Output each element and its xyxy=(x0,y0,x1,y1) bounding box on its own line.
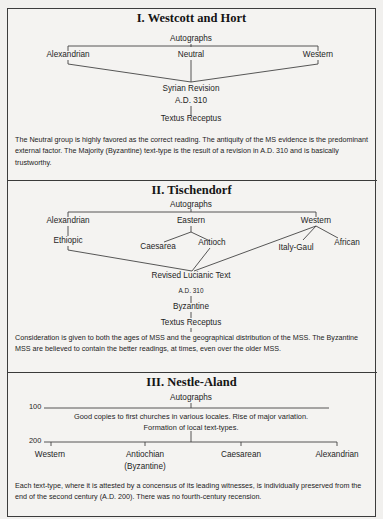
section2-node-western: Western xyxy=(301,216,331,226)
section3-node-caesarean: Caesarean xyxy=(221,450,261,460)
section1-node-alexandrian: Alexandrian xyxy=(46,50,89,60)
section1-result-node: Textus Receptus xyxy=(161,114,222,124)
section2-node-antioch: Antioch xyxy=(198,238,225,248)
section2-node-alexandrian: Alexandrian xyxy=(46,216,89,226)
section-divider-2 xyxy=(7,372,377,373)
section2-root-node: Autographs xyxy=(170,200,212,210)
section3-title: III. Nestle-Aland xyxy=(0,375,383,389)
section-divider-1 xyxy=(7,180,377,181)
section2-node-ethiopic: Ethiopic xyxy=(53,236,82,246)
section2-node-italy-gaul: Italy-Gaul xyxy=(278,243,313,253)
section1-node-western: Western xyxy=(303,50,333,60)
book-page: I. Westcott and Hort Autographs Alexandr… xyxy=(0,0,383,519)
section3-description: Each text-type, where it is attested by … xyxy=(15,480,373,503)
section1-merge-node: Syrian Revision xyxy=(163,84,220,94)
section2-byzantine-node: Byzantine xyxy=(173,302,209,312)
section3-note-line1: Good copies to first churches in various… xyxy=(74,412,308,422)
section2-node-eastern: Eastern xyxy=(177,216,205,226)
section2-merge-node: Revised Lucianic Text xyxy=(151,271,230,281)
section3-node-western: Western xyxy=(35,450,65,460)
section1-root-node: Autographs xyxy=(170,34,212,44)
section2-node-caesarea: Caesarea xyxy=(140,242,176,252)
section2-node-african: African xyxy=(334,238,359,248)
section3-year-100: 100 xyxy=(29,402,41,412)
section1-node-neutral: Neutral xyxy=(178,50,204,60)
section3-node-antiochian-sub: (Byzantine) xyxy=(124,462,165,472)
section3-note-line2: Formation of local text-types. xyxy=(144,423,239,433)
section1-title: I. Westcott and Hort xyxy=(0,11,383,25)
section1-merge-date: A.D. 310 xyxy=(175,96,207,106)
section2-description: Consideration is given to both the ages … xyxy=(15,332,373,355)
section2-merge-date: A.D. 310 xyxy=(179,286,204,296)
section3-node-alexandrian: Alexandrian xyxy=(315,450,358,460)
section2-title: II. Tischendorf xyxy=(0,183,383,197)
section3-year-200: 200 xyxy=(29,436,41,446)
section3-root-node: Autographs xyxy=(170,393,212,403)
section1-description: The Neutral group is highly favored as t… xyxy=(15,134,373,168)
section2-result-node: Textus Receptus xyxy=(161,318,222,328)
section3-node-antiochian: Antiochian xyxy=(126,450,164,460)
